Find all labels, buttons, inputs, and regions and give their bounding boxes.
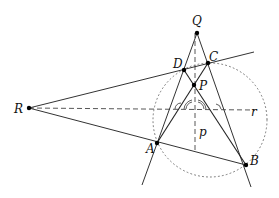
label-Q: Q — [192, 14, 202, 28]
point-A — [155, 141, 159, 145]
label-A: A — [145, 142, 155, 156]
point-P — [192, 83, 196, 87]
label-C: C — [209, 50, 218, 64]
angle-arc-2b — [186, 102, 192, 109]
label-r: r — [251, 105, 258, 119]
label-P: P — [198, 79, 208, 93]
geometry-diagram: Q C D P R A B p r — [0, 0, 279, 198]
line-RB — [29, 108, 246, 165]
label-B: B — [249, 154, 259, 168]
angle-arc-4 — [216, 104, 221, 109]
point-R — [27, 106, 31, 110]
label-p: p — [199, 125, 207, 139]
angle-arc-3b — [198, 102, 204, 109]
point-B — [244, 163, 248, 167]
point-Q — [195, 31, 199, 35]
label-D: D — [172, 57, 183, 71]
label-R: R — [13, 102, 23, 116]
